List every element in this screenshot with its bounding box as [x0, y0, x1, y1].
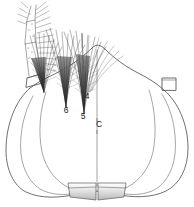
label-c: C	[96, 119, 102, 129]
left-lateral-lobe	[21, 92, 80, 195]
right-appendage-socket	[162, 78, 176, 90]
label-6: 6	[64, 105, 69, 115]
right-terminal-plate	[98, 183, 126, 200]
label-5: 5	[81, 111, 86, 121]
label-4: 4	[85, 91, 90, 101]
setal-tuft-3	[64, 30, 106, 114]
left-terminal-plate	[68, 183, 96, 200]
right-lateral-lobe	[116, 90, 175, 195]
figure-drawing: 6 5 4 C	[0, 0, 194, 207]
scientific-figure: 6 5 4 C	[0, 0, 194, 207]
